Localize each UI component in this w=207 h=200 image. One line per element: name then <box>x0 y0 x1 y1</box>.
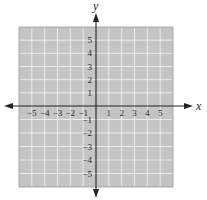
x-tick-label: −2 <box>66 108 76 118</box>
x-tick-label: 5 <box>158 108 163 118</box>
y-tick-label: −1 <box>82 115 92 125</box>
y-tick-label: −2 <box>82 128 92 138</box>
x-tick-label: 2 <box>119 108 124 118</box>
y-tick-label: 5 <box>88 35 93 45</box>
x-tick-label: −4 <box>40 108 50 118</box>
y-axis-bottom-arrow-icon <box>93 189 99 198</box>
x-axis-right-arrow-icon <box>184 103 193 109</box>
x-tick-label: −3 <box>53 108 63 118</box>
x-axis-label: x <box>195 99 202 113</box>
y-tick-label: −5 <box>82 169 92 179</box>
x-tick-label: 3 <box>132 108 137 118</box>
x-tick-label: 1 <box>107 108 112 118</box>
x-tick-label: −5 <box>27 108 37 118</box>
y-tick-label: −4 <box>82 155 92 165</box>
x-axis-left-arrow-icon <box>4 103 13 109</box>
y-tick-label: −3 <box>82 142 92 152</box>
y-tick-label: 3 <box>88 62 93 72</box>
y-tick-label: 4 <box>88 48 93 58</box>
y-tick-label: 1 <box>88 88 93 98</box>
y-axis-top-arrow-icon <box>93 13 99 22</box>
coordinate-plane: −5−4−3−2−112345 −5−4−3−2−112345 x y <box>0 0 207 200</box>
y-axis-label: y <box>92 0 99 13</box>
x-tick-label: 4 <box>145 108 150 118</box>
y-tick-label: 2 <box>88 75 93 85</box>
